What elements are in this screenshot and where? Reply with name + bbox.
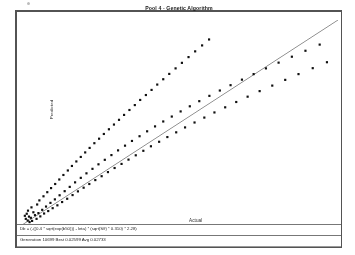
scatter-plot-svg	[22, 20, 338, 225]
figure-window-frame: Pool 4 - Genetic Algorithm Predicted Act…	[15, 10, 342, 248]
scanned-page: Pool 4 - Genetic Algorithm Predicted Act…	[0, 0, 355, 255]
formula-readout: Db = (-((0.4 * sqrt(exp(b50))) - leta) *…	[17, 224, 341, 235]
y-axis-label: Predicted	[49, 87, 54, 133]
identity-reference-line	[22, 20, 338, 225]
scatter-points-group	[24, 38, 328, 223]
chart-title: Pool 4 - Genetic Algorithm	[17, 5, 341, 11]
x-axis-label: Actual	[189, 218, 202, 223]
status-readout: Generation 10699 Best 0.02599 Avg 0.0273…	[17, 235, 341, 247]
scatter-plot-area	[22, 20, 338, 225]
